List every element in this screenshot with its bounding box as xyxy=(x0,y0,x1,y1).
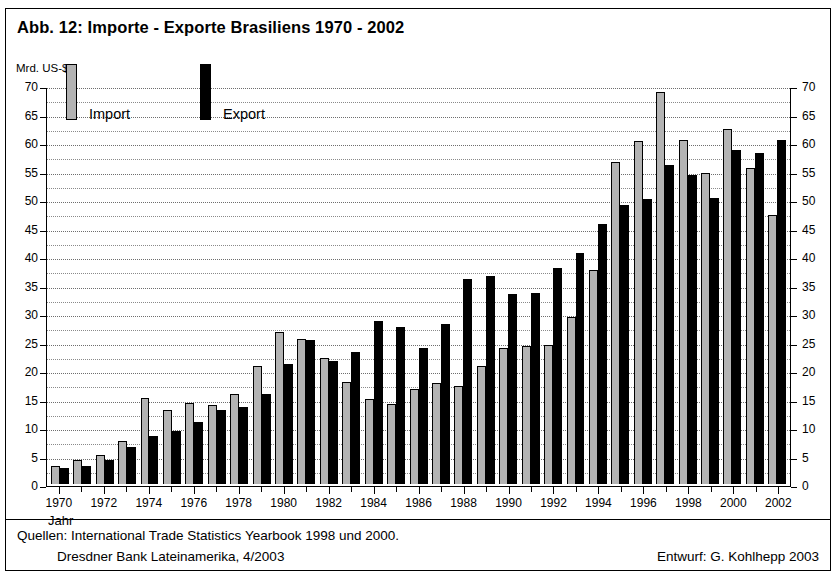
bar-export xyxy=(665,165,674,484)
x-axis-label-cell xyxy=(520,496,542,512)
bar-import xyxy=(365,399,374,484)
x-axis-tick-minor xyxy=(531,487,532,492)
x-axis-tick xyxy=(194,487,195,494)
bar-export xyxy=(463,279,472,484)
bar-export xyxy=(60,468,69,485)
credit-line: Entwurf: G. Kohlhepp 2003 xyxy=(657,549,819,564)
plot-area: 0510152025303540455055606570 05101520253… xyxy=(46,88,791,487)
y-axis-tick-label-left: 60 xyxy=(4,138,38,150)
x-axis-tick xyxy=(104,487,105,494)
bar-group xyxy=(273,88,295,484)
x-axis-tick-minor xyxy=(621,487,622,492)
y-axis-tick-label-right: 5 xyxy=(791,452,809,464)
bar-export xyxy=(486,276,495,485)
y-axis-tick-label-left: 45 xyxy=(4,224,38,236)
y-axis-unit-label: Mrd. US-$ xyxy=(16,62,68,74)
bar-export xyxy=(262,394,271,485)
bar-import xyxy=(611,162,620,484)
y-axis-tick-label-left: 35 xyxy=(4,281,38,293)
bar-import xyxy=(410,389,419,485)
x-axis-label-cell: 1970 xyxy=(48,496,70,512)
x-axis-tick-label: 1984 xyxy=(360,496,387,510)
y-axis-right-labels: 0510152025303540455055606570 xyxy=(791,88,831,487)
x-axis-tick-label: 1976 xyxy=(180,496,207,510)
bar-export xyxy=(105,460,114,484)
bar-group xyxy=(632,88,654,484)
legend-label-export: Export xyxy=(223,106,265,122)
y-axis-tick xyxy=(791,430,797,431)
x-axis-tick-label: 1992 xyxy=(540,496,567,510)
x-axis-tick-minor xyxy=(171,487,172,492)
y-axis-tick xyxy=(40,145,46,146)
x-axis-title: Jahr xyxy=(48,513,73,528)
bar-import xyxy=(544,345,553,484)
bar-export xyxy=(598,224,607,484)
bar-group xyxy=(609,88,631,484)
x-axis-tick-label: 1972 xyxy=(90,496,117,510)
y-axis-tick xyxy=(791,259,797,260)
source-line-2: Dresdner Bank Lateinamerika, 4/2003 xyxy=(57,549,284,564)
bar-export xyxy=(82,466,91,485)
bar-group xyxy=(385,88,407,484)
bar-import xyxy=(118,441,127,485)
footer-divider xyxy=(6,519,831,520)
bar-import xyxy=(634,141,643,485)
x-axis-tick-label: 1974 xyxy=(135,496,162,510)
y-axis-tick-label-left: 0 xyxy=(4,480,38,492)
bar-export xyxy=(239,407,248,485)
x-axis-label-cell: 1972 xyxy=(93,496,115,512)
x-axis-label-cell: 1990 xyxy=(497,496,519,512)
bar-export xyxy=(441,324,450,485)
bar-export xyxy=(531,293,540,484)
bar-export xyxy=(620,205,629,484)
y-axis-tick xyxy=(40,373,46,374)
bar-export xyxy=(329,361,338,484)
y-axis-tick xyxy=(791,88,797,89)
y-axis-tick-label-right: 55 xyxy=(791,167,815,179)
bar-import xyxy=(454,386,463,485)
bar-export xyxy=(688,175,697,485)
bar-group xyxy=(93,88,115,484)
source-line-1: Quellen: International Trade Statistics … xyxy=(17,528,399,543)
bar-import xyxy=(185,403,194,485)
y-axis-tick-label-right: 40 xyxy=(791,252,815,264)
x-axis-tick-label: 2002 xyxy=(765,496,792,510)
y-axis-tick xyxy=(791,402,797,403)
y-axis-tick-label-left: 20 xyxy=(4,366,38,378)
x-axis-tick-minor xyxy=(396,487,397,492)
bar-export xyxy=(217,410,226,484)
y-axis-tick xyxy=(40,316,46,317)
bar-import xyxy=(522,346,531,485)
x-axis-label-cell xyxy=(430,496,452,512)
y-axis-tick-label-left: 30 xyxy=(4,309,38,321)
x-axis-label-cell: 1976 xyxy=(183,496,205,512)
bar-group xyxy=(363,88,385,484)
bar-export xyxy=(777,140,786,484)
x-axis-tick-minor xyxy=(576,487,577,492)
bar-group xyxy=(340,88,362,484)
y-axis-tick xyxy=(40,402,46,403)
bar-export xyxy=(710,198,719,484)
x-axis-label-cell xyxy=(475,496,497,512)
y-axis-tick xyxy=(791,202,797,203)
bar-group xyxy=(183,88,205,484)
x-axis-tick-minor xyxy=(216,487,217,492)
x-axis-label-cell xyxy=(610,496,632,512)
bar-group xyxy=(430,88,452,484)
bar-import xyxy=(567,317,576,484)
legend-item-export: Export xyxy=(200,60,265,120)
bar-group xyxy=(699,88,721,484)
y-axis-tick xyxy=(791,174,797,175)
y-axis-tick-label-right: 70 xyxy=(791,81,815,93)
x-axis-tick-minor xyxy=(261,487,262,492)
bar-import xyxy=(96,455,105,484)
y-axis-tick xyxy=(791,145,797,146)
x-axis-tick-minor xyxy=(81,487,82,492)
y-axis-tick xyxy=(791,487,797,488)
x-axis-label-cell: 1974 xyxy=(138,496,160,512)
y-axis-tick-label-left: 10 xyxy=(4,423,38,435)
y-axis-tick xyxy=(40,430,46,431)
y-axis-tick-label-right: 15 xyxy=(791,395,815,407)
x-axis-label-cell xyxy=(205,496,227,512)
x-axis-tick-minor xyxy=(666,487,667,492)
